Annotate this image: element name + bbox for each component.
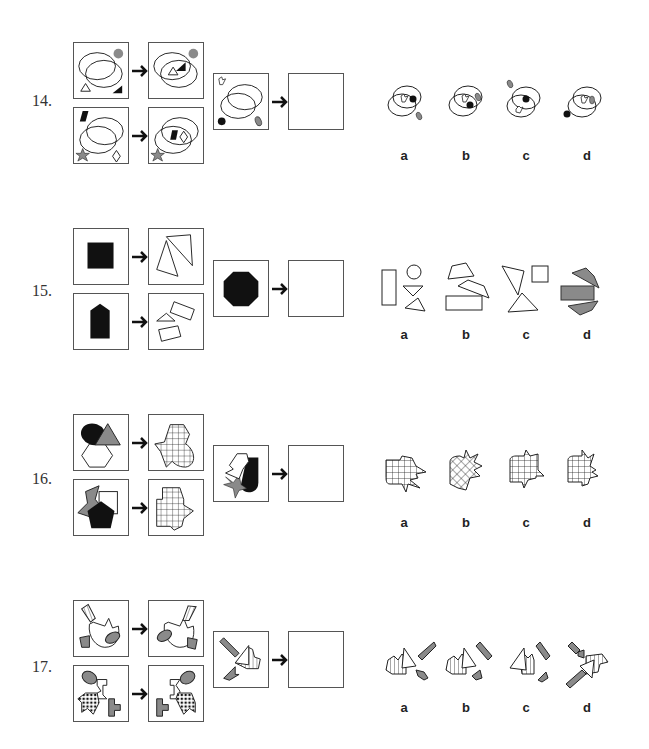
option-b[interactable] — [440, 448, 500, 508]
example-1-result — [148, 600, 204, 657]
arrow-icon — [130, 622, 150, 636]
option-b-label: b — [456, 148, 476, 163]
option-b-label: b — [456, 700, 476, 715]
option-c[interactable] — [498, 632, 558, 692]
option-d-label: d — [577, 515, 597, 530]
question-number: 16. — [32, 470, 52, 488]
example-2-source — [73, 293, 129, 350]
option-a[interactable] — [378, 258, 438, 318]
example-2-source — [73, 107, 129, 164]
example-2-source — [73, 479, 129, 536]
example-2-result — [148, 665, 204, 722]
option-d-label: d — [577, 700, 597, 715]
option-c[interactable] — [500, 448, 560, 508]
arrow-icon — [130, 64, 150, 78]
option-b[interactable] — [438, 258, 498, 318]
example-2-result — [148, 479, 204, 536]
question-source — [213, 73, 269, 130]
arrow-icon — [130, 436, 150, 450]
option-d-label: d — [577, 327, 597, 342]
option-a-label: a — [394, 148, 414, 163]
option-d[interactable] — [558, 258, 618, 318]
answer-box[interactable] — [288, 73, 344, 130]
answer-box[interactable] — [288, 445, 344, 502]
example-1-result — [148, 42, 204, 99]
option-b-label: b — [456, 515, 476, 530]
arrow-icon — [270, 282, 290, 296]
option-c-label: c — [516, 515, 536, 530]
question-source — [213, 631, 269, 688]
arrow-icon — [270, 467, 290, 481]
option-a[interactable] — [380, 448, 440, 508]
question-number: 15. — [32, 282, 52, 300]
example-1-result — [148, 414, 204, 471]
question-source — [213, 260, 269, 317]
option-d[interactable] — [556, 78, 616, 138]
answer-box[interactable] — [288, 260, 344, 317]
option-d[interactable] — [558, 632, 618, 692]
example-2-result — [148, 107, 204, 164]
option-c-label: c — [516, 700, 536, 715]
option-a-label: a — [394, 327, 414, 342]
example-1-source — [73, 600, 129, 657]
option-c-label: c — [516, 327, 536, 342]
option-b-label: b — [456, 327, 476, 342]
option-b[interactable] — [438, 632, 498, 692]
arrow-icon — [130, 501, 150, 515]
question-number: 14. — [32, 92, 52, 110]
example-1-result — [148, 228, 204, 285]
example-2-result — [148, 293, 204, 350]
option-a[interactable] — [378, 78, 438, 138]
example-1-source — [73, 228, 129, 285]
option-c-label: c — [516, 148, 536, 163]
arrow-icon — [130, 129, 150, 143]
example-1-source — [73, 42, 129, 99]
example-1-source — [73, 414, 129, 471]
arrow-icon — [270, 653, 290, 667]
option-a-label: a — [394, 515, 414, 530]
question-number: 17. — [32, 658, 52, 676]
option-b[interactable] — [436, 78, 496, 138]
option-d[interactable] — [560, 448, 620, 508]
option-d-label: d — [577, 148, 597, 163]
option-a-label: a — [394, 700, 414, 715]
question-source — [213, 445, 269, 502]
option-a[interactable] — [378, 632, 438, 692]
option-c[interactable] — [498, 258, 558, 318]
arrow-icon — [130, 687, 150, 701]
arrow-icon — [130, 250, 150, 264]
answer-box[interactable] — [288, 631, 344, 688]
option-c[interactable] — [496, 78, 556, 138]
example-2-source — [73, 665, 129, 722]
arrow-icon — [130, 315, 150, 329]
arrow-icon — [270, 95, 290, 109]
